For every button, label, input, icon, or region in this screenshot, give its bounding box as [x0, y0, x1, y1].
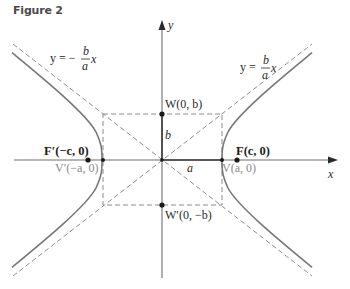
label-W: W(0, b) — [165, 97, 202, 111]
asymptote-left-prefix: y = − — [50, 51, 76, 65]
y-axis-label: y — [167, 18, 174, 32]
label-V: V(a, 0) — [222, 161, 256, 175]
asymptote-right-suffix: x — [270, 61, 277, 75]
label-W-prime: W′(0, −b) — [165, 208, 212, 222]
asymptote-left-equation: y = − b a x — [50, 44, 97, 73]
hyperbola-diagram: y x W(0, b) W′(0, −b) F(c, 0) F′(−c, 0) … — [0, 0, 350, 289]
asymptote-right-prefix: y = — [240, 60, 256, 74]
asymptote-right-num: b — [263, 53, 269, 67]
point-W — [159, 111, 164, 116]
asymptote-left-num: b — [83, 44, 89, 58]
asymptote-left-suffix: x — [90, 52, 97, 66]
label-V-prime: V′(−a, 0) — [55, 161, 98, 175]
x-axis-label: x — [327, 167, 334, 181]
y-axis-arrow-icon — [159, 20, 166, 30]
asymptote-right-equation: y = b a x — [240, 53, 277, 82]
point-origin — [160, 158, 164, 162]
point-V-prime — [101, 158, 105, 162]
label-F-prime: F′(−c, 0) — [44, 144, 89, 158]
label-F: F(c, 0) — [236, 144, 270, 158]
x-axis-arrow-icon — [328, 157, 338, 164]
asymptote-left-den: a — [82, 59, 88, 73]
label-b: b — [165, 128, 171, 142]
asymptote-right-den: a — [262, 68, 268, 82]
point-W-prime — [159, 202, 164, 207]
label-a: a — [187, 161, 193, 175]
